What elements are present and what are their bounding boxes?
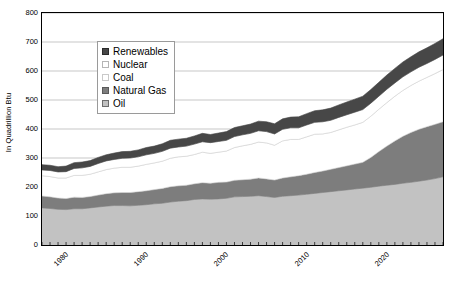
legend-swatch-icon <box>102 100 109 107</box>
legend-item[interactable]: Oil <box>102 97 168 110</box>
y-tick-label: 300 <box>16 153 38 162</box>
legend-label: Natural Gas <box>113 85 166 96</box>
legend-label: Coal <box>113 72 134 83</box>
legend-label: Oil <box>113 98 125 109</box>
y-tick-label: 700 <box>16 37 38 46</box>
y-axis-title-text: In Quadrillion Btu <box>5 92 14 151</box>
x-tick-label: 1990 <box>132 250 150 268</box>
x-tick-label: 2010 <box>292 250 310 268</box>
legend-item[interactable]: Natural Gas <box>102 84 168 97</box>
y-tick-label: 800 <box>16 8 38 17</box>
y-tick-label: 0 <box>16 240 38 249</box>
x-tick-label: 2000 <box>212 250 230 268</box>
y-tick-label: 400 <box>16 124 38 133</box>
y-axis-tick-labels: 0100200300400500600700800 <box>14 0 38 288</box>
stacked-area-chart: In Quadrillion Btu 010020030040050060070… <box>0 0 451 288</box>
legend-swatch-icon <box>102 48 109 55</box>
legend-item[interactable]: Renewables <box>102 45 168 58</box>
y-axis-title: In Quadrillion Btu <box>2 0 16 244</box>
legend-swatch-icon <box>102 87 109 94</box>
legend-swatch-icon <box>102 61 109 68</box>
legend-item[interactable]: Coal <box>102 71 168 84</box>
y-tick-label: 100 <box>16 211 38 220</box>
chart-legend: RenewablesNuclearCoalNatural GasOil <box>97 41 175 114</box>
legend-label: Nuclear <box>113 59 147 70</box>
legend-swatch-icon <box>102 74 109 81</box>
legend-label: Renewables <box>113 46 168 57</box>
y-tick-label: 500 <box>16 95 38 104</box>
x-tick-label: 1980 <box>52 250 70 268</box>
legend-item[interactable]: Nuclear <box>102 58 168 71</box>
y-tick-label: 200 <box>16 182 38 191</box>
y-tick-label: 600 <box>16 66 38 75</box>
x-tick-label: 2020 <box>373 250 391 268</box>
